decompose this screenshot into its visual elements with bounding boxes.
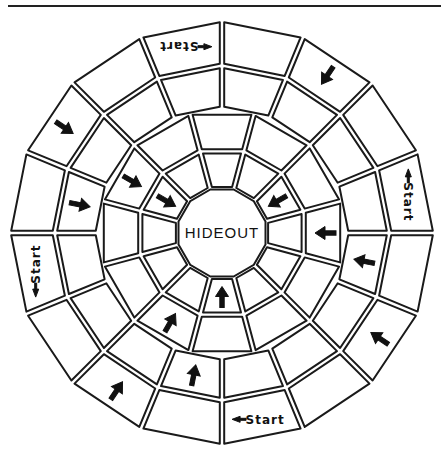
board-space[interactable] — [224, 350, 283, 397]
board-space[interactable] — [306, 204, 340, 263]
start-label: Start — [246, 413, 285, 427]
space-plain[interactable] — [224, 22, 300, 76]
space-plain[interactable] — [339, 172, 386, 231]
board-space[interactable] — [224, 22, 300, 76]
space-plain[interactable] — [143, 390, 219, 444]
board-space[interactable] — [339, 172, 386, 231]
space-plain[interactable] — [11, 154, 65, 230]
board-space[interactable] — [161, 350, 220, 397]
board-space[interactable] — [203, 279, 241, 313]
space-plain[interactable] — [193, 115, 252, 149]
board-space[interactable] — [203, 153, 241, 187]
space-hatch-light[interactable] — [224, 68, 283, 115]
space-plain[interactable] — [193, 317, 252, 351]
board-space[interactable] — [143, 390, 219, 444]
board-space[interactable] — [268, 214, 302, 252]
board-space[interactable] — [379, 235, 433, 311]
start-label: Start — [159, 39, 198, 53]
space-plain[interactable] — [379, 235, 433, 311]
space-plain[interactable] — [224, 350, 283, 397]
board-space[interactable]: Start — [143, 22, 219, 76]
hideout-label: HIDEOUT — [185, 224, 260, 241]
space-plain[interactable] — [104, 204, 138, 263]
board-space[interactable] — [57, 235, 104, 294]
space-plain[interactable] — [268, 214, 302, 252]
board-space[interactable] — [224, 68, 283, 115]
board-space[interactable] — [57, 172, 104, 231]
board-space[interactable] — [11, 154, 65, 230]
space-hatch-light[interactable] — [203, 153, 241, 187]
board-space[interactable] — [339, 235, 386, 294]
start-label: Start — [401, 182, 415, 221]
space-plain[interactable] — [161, 68, 220, 115]
board-space[interactable] — [142, 214, 176, 252]
board-space[interactable] — [161, 68, 220, 115]
board-space[interactable] — [193, 317, 252, 351]
board-space[interactable] — [193, 115, 252, 149]
game-board: StartStartStartStart HIDEOUT — [0, 0, 445, 461]
board-space[interactable]: Start — [224, 390, 300, 444]
board-space[interactable]: Start — [379, 154, 433, 230]
board-space[interactable]: Start — [11, 235, 65, 311]
space-hatch-light[interactable] — [57, 235, 104, 294]
hideout-hub[interactable]: HIDEOUT — [179, 190, 266, 277]
space-plain[interactable] — [142, 214, 176, 252]
board-space[interactable] — [104, 204, 138, 263]
start-label: Start — [29, 245, 43, 284]
